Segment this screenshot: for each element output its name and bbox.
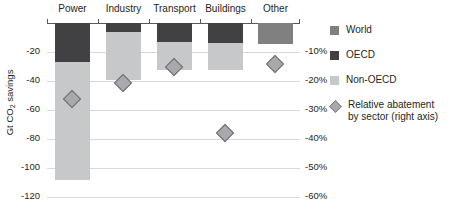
y-tick-label-right-0: -10% <box>305 45 327 56</box>
x-axis-tick-2 <box>149 19 150 23</box>
legend-item-relative-abatement[interactable]: Relative abatement by sector (right axis… <box>330 99 438 122</box>
x-category-label-buildings: Buildings <box>200 3 251 14</box>
bar-segment-industry-oecd[interactable] <box>106 23 141 32</box>
y-tick-label-right-1: -20% <box>305 74 327 85</box>
x-axis-tick-1 <box>98 19 99 23</box>
chart-container: Gt CO2 savings -20 -40 -60 -80 -100 -120… <box>0 0 453 215</box>
x-axis-tick-4 <box>251 19 252 23</box>
legend-swatch-world-icon <box>330 26 339 35</box>
plot-area <box>47 23 300 197</box>
y-tick-label-left-2: -60 <box>8 103 40 114</box>
legend-label-oecd: OECD <box>346 49 375 61</box>
legend-swatch-oecd-icon <box>330 51 339 60</box>
bar-segment-buildings-nonoecd[interactable] <box>208 43 243 70</box>
y-tick-label-left-5: -120 <box>8 190 40 201</box>
x-category-label-industry: Industry <box>98 3 149 14</box>
y-tick-label-left-1: -40 <box>8 74 40 85</box>
x-axis-tick-3 <box>200 19 201 23</box>
legend-label-relative-abatement-line2: by sector (right axis) <box>348 111 438 122</box>
bar-segment-industry-nonoecd[interactable] <box>106 32 141 80</box>
legend-label-relative-abatement-line1: Relative abatement <box>348 99 434 110</box>
marker-other[interactable] <box>266 55 284 73</box>
x-category-label-transport: Transport <box>149 3 200 14</box>
legend-item-nonoecd[interactable]: Non-OECD <box>330 74 397 86</box>
bar-segment-other-world[interactable] <box>258 23 293 44</box>
y-tick-label-right-5: -60% <box>305 190 327 201</box>
bar-segment-buildings-oecd[interactable] <box>208 23 243 43</box>
legend-diamond-marker-icon <box>329 100 342 113</box>
legend-item-oecd[interactable]: OECD <box>330 49 375 61</box>
x-axis-tick-0 <box>47 19 48 23</box>
y-tick-label-right-4: -50% <box>305 161 327 172</box>
legend-swatch-nonoecd-icon <box>330 76 339 85</box>
y-tick-label-right-2: -30% <box>305 103 327 114</box>
bar-segment-power-nonoecd[interactable] <box>55 62 90 180</box>
x-category-label-other: Other <box>251 3 300 14</box>
legend-label-nonoecd: Non-OECD <box>346 74 397 86</box>
legend-item-world[interactable]: World <box>330 24 372 36</box>
bar-segment-transport-oecd[interactable] <box>157 23 192 42</box>
gridline-minus120 <box>47 197 300 198</box>
y-tick-label-left-3: -80 <box>8 132 40 143</box>
x-axis-tick-5 <box>299 19 300 23</box>
y-tick-label-left-4: -100 <box>8 161 40 172</box>
legend-label-world: World <box>346 24 372 36</box>
y-tick-label-left-0: -20 <box>8 45 40 56</box>
legend-label-relative-abatement: Relative abatement by sector (right axis… <box>348 99 438 122</box>
y-tick-label-right-3: -40% <box>305 132 327 143</box>
bar-segment-power-oecd[interactable] <box>55 23 90 62</box>
x-category-label-power: Power <box>47 3 98 14</box>
